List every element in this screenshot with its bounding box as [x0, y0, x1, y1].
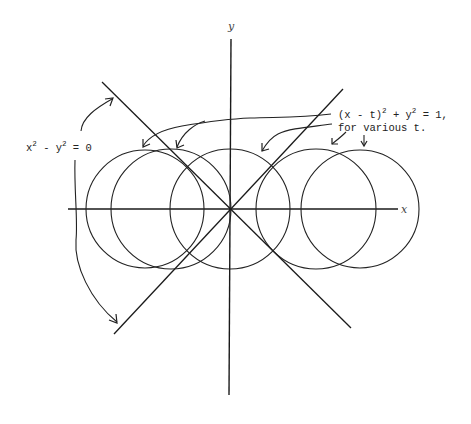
arrowhead-circle-1 — [143, 139, 150, 147]
arrow-to-circle-1 — [143, 114, 331, 146]
y-axis-label: y — [227, 20, 235, 33]
x-axis-label: x — [401, 203, 408, 216]
line-y-equals-x — [114, 89, 343, 334]
circle-equation-sublabel: for various t. — [338, 122, 426, 134]
line-y-equals-minus-x — [102, 82, 351, 328]
circle-equation-label: (x - t)2 + y2 = 1, — [338, 107, 448, 121]
arrow-to-upper-line — [81, 99, 112, 131]
asymptote-equation-label: x2 - y2 = 0 — [26, 140, 92, 154]
diagram-canvas: x y x2 - y2 = 0 (x - t)2 + y2 = 1, for v… — [0, 0, 471, 424]
